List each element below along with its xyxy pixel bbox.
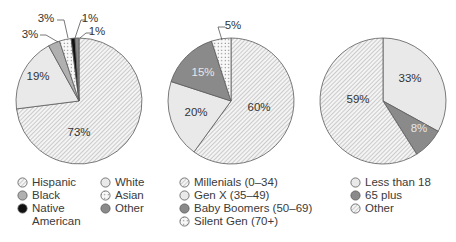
legend-item-other: Other xyxy=(350,202,431,215)
legend-marker-icon xyxy=(100,177,111,188)
legend-label: White xyxy=(115,176,144,189)
legend-item-native-american: Native American xyxy=(17,202,81,228)
legend-label: Black xyxy=(32,189,60,202)
slice-label-gen-x-35-49: 20% xyxy=(184,106,207,118)
legend-marker-icon xyxy=(179,203,190,214)
legend-marker-icon xyxy=(350,177,361,188)
legend-label: Asian xyxy=(115,189,144,202)
pie-charts: 73%19%3%3%1%1% 60%20%15%5% 33%8%59% xyxy=(0,0,456,170)
legend-item-baby-boomers-50-69: Baby Boomers (50–69) xyxy=(179,202,312,215)
legend-marker-icon xyxy=(17,177,28,188)
legend-item-white: White xyxy=(100,176,144,189)
legend-marker-icon xyxy=(17,203,28,214)
legend-label: Less than 18 xyxy=(365,176,431,189)
legend-label: Millenials (0–34) xyxy=(194,176,278,189)
slice-label-asian: 3% xyxy=(38,12,55,24)
legend-marker-icon xyxy=(350,190,361,201)
legend-label: Hispanic xyxy=(32,176,76,189)
legend-label: Other xyxy=(115,202,144,215)
legend-marker-icon xyxy=(179,216,190,227)
legend-item-65-plus: 65 plus xyxy=(350,189,431,202)
legend-label: Silent Gen (70+) xyxy=(194,215,278,228)
legend-ethnicity-col1: HispanicBlackNative American xyxy=(17,176,81,228)
slice-label-other: 1% xyxy=(89,25,106,37)
slice-label-white: 19% xyxy=(26,70,49,82)
legend-label: Native American xyxy=(32,202,81,228)
legend-marker-icon xyxy=(100,203,111,214)
slice-label-65-plus: 8% xyxy=(411,122,428,134)
pie-chart-age-group: 33%8%59% xyxy=(320,38,446,164)
pie-chart-ethnicity: 73%19%3%3%1%1% xyxy=(16,12,142,164)
slice-label-silent-gen-70: 5% xyxy=(225,19,242,31)
legend-marker-icon xyxy=(179,190,190,201)
legend-label: Other xyxy=(365,202,394,215)
legend-item-black: Black xyxy=(17,189,81,202)
legend-marker-icon xyxy=(100,190,111,201)
legend-ethnicity-col2: WhiteAsianOther xyxy=(100,176,144,215)
legend-item-gen-x-35-49: Gen X (35–49) xyxy=(179,189,312,202)
legend-item-silent-gen-70: Silent Gen (70+) xyxy=(179,215,312,228)
slice-label-black: 3% xyxy=(22,28,39,40)
slice-label-other: 59% xyxy=(346,93,369,105)
legend-age-group: Less than 1865 plusOther xyxy=(350,176,431,215)
legend-item-hispanic: Hispanic xyxy=(17,176,81,189)
legend-marker-icon xyxy=(17,190,28,201)
legend-item-asian: Asian xyxy=(100,189,144,202)
legend-item-millenials-0-34: Millenials (0–34) xyxy=(179,176,312,189)
slice-label-millenials-0-34: 60% xyxy=(247,101,270,113)
legend-label: 65 plus xyxy=(365,189,402,202)
slice-label-less-than-18: 33% xyxy=(398,72,421,84)
legend-marker-icon xyxy=(179,177,190,188)
legend-marker-icon xyxy=(350,203,361,214)
slice-label-baby-boomers-50-69: 15% xyxy=(191,66,214,78)
slice-label-native-american: 1% xyxy=(82,12,99,24)
legend-label: Gen X (35–49) xyxy=(194,189,269,202)
legend-generation: Millenials (0–34)Gen X (35–49)Baby Boome… xyxy=(179,176,312,228)
legend-item-less-than-18: Less than 18 xyxy=(350,176,431,189)
legend-label: Baby Boomers (50–69) xyxy=(194,202,312,215)
leader-line xyxy=(40,35,58,42)
pie-chart-generation: 60%20%15%5% xyxy=(168,19,294,164)
slice-label-hispanic: 73% xyxy=(67,126,90,138)
legend-item-other: Other xyxy=(100,202,144,215)
leader-line xyxy=(57,20,68,38)
